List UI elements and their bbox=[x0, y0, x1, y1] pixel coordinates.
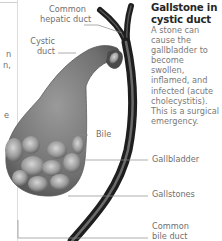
description-line: A stone can bbox=[151, 25, 219, 35]
title-line: Gallstone in bbox=[151, 2, 219, 14]
description-line: cause the bbox=[151, 35, 219, 45]
label-bile: Bile bbox=[96, 130, 111, 140]
description-line: This is a surgical bbox=[151, 106, 219, 116]
description-line: emergency. bbox=[151, 116, 219, 126]
label-line: duct bbox=[20, 47, 55, 57]
label-line: bile duct bbox=[152, 232, 189, 241]
label-line: hepatic duct bbox=[40, 15, 86, 25]
callout-description: A stone can cause the gallbladder to bec… bbox=[151, 25, 219, 126]
description-line: cholecystitis). bbox=[151, 96, 219, 106]
title-line: cystic duct bbox=[151, 14, 219, 26]
description-line: infected (acute bbox=[151, 86, 219, 96]
callout-box: Gallstone in cystic duct A stone can cau… bbox=[151, 2, 219, 126]
callout-title: Gallstone in cystic duct bbox=[151, 2, 219, 25]
description-line: inflamed, and bbox=[151, 75, 219, 85]
description-line: become bbox=[151, 55, 219, 65]
description-line: swollen, bbox=[151, 65, 219, 75]
label-cystic-duct: Cystic duct bbox=[20, 37, 55, 56]
label-common-hepatic-duct: Common hepatic duct bbox=[40, 5, 86, 24]
label-gallstones: Gallstones bbox=[152, 190, 195, 200]
description-line: gallbladder to bbox=[151, 45, 219, 55]
label-common-bile-duct: Common bile duct bbox=[152, 222, 189, 241]
label-gallbladder: Gallbladder bbox=[152, 155, 199, 165]
